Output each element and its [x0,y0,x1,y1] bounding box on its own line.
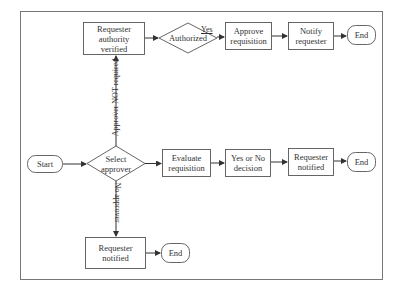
yes-no-decision-line1: Yes or No [231,153,265,163]
authority-verified-label: Requester authority verified [83,22,145,55]
end-top-label: End [347,25,376,45]
authority-verified-line2: authority [99,34,130,44]
approve-requisition-line1: Approve [234,26,264,36]
requester-notified-mid-line1: Requester [294,152,328,162]
requester-notified-bottom-label: Requester notified [85,237,146,269]
notify-requester-line1: Notify [300,26,322,36]
yes-no-decision-label: Yes or No decision [225,149,271,177]
evaluate-requisition-line2: requisition [168,163,204,173]
end-mid-label: End [347,152,376,172]
approve-requisition-label: Approve requisition [225,22,272,50]
select-approver-line1: Select [106,154,127,164]
diagram-frame [21,12,383,280]
select-approver-line2: approver [101,164,131,174]
notify-requester-label: Notify requester [288,22,334,50]
evaluate-requisition-label: Evaluate requisition [162,149,211,177]
select-approver-label: Select approver [91,148,141,180]
end-bottom-label: End [161,243,190,263]
start-label: Start [27,155,63,173]
approver-not-required-edge-label: Approver NOT required [111,53,120,143]
yes-no-decision-line2: decision [234,163,262,173]
requester-notified-mid-label: Requester notified [288,148,334,176]
requester-notified-bottom-line1: Requester [99,243,133,253]
yes-edge-label: Yes [201,25,213,34]
authority-verified-line1: Requester [97,24,131,34]
requester-notified-mid-line2: notified [298,162,324,172]
approve-requisition-line2: requisition [230,36,266,46]
requester-notified-bottom-line2: notified [102,253,128,263]
no-approver-edge-label: No approver [113,178,122,228]
evaluate-requisition-line1: Evaluate [172,153,202,163]
notify-requester-line2: requester [295,36,326,46]
